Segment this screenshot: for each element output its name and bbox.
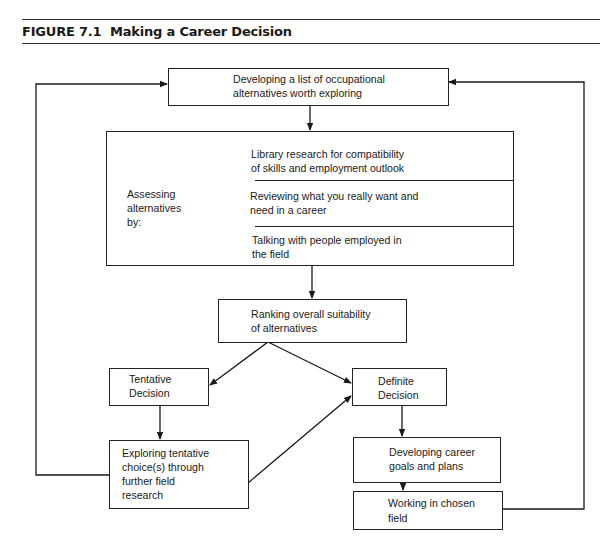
assessing-item-talking-line1: Talking with people employed in <box>252 233 402 247</box>
node-develop-list: Developing a list of occupational altern… <box>168 68 449 106</box>
assessing-item-reviewing-line1: Reviewing what you really want and <box>250 189 418 203</box>
assessing-item-talking-line2: the field <box>252 247 289 261</box>
node-definite-line2: Decision <box>378 388 419 402</box>
node-tentative-decision: Tentative Decision <box>109 368 209 406</box>
node-assessing: Assessing alternatives by: Library resea… <box>106 131 514 266</box>
node-goals-line2: goals and plans <box>389 459 463 473</box>
node-tentative-line1: Tentative <box>129 372 171 386</box>
node-develop-list-line2: alternatives worth exploring <box>233 86 362 100</box>
node-exploring-line2: choice(s) through <box>122 460 204 474</box>
arrow-ranking-to-tentative <box>210 342 268 385</box>
assessing-label-line1: Assessing <box>127 187 175 201</box>
arrow-exploring-to-definite <box>248 396 351 483</box>
node-exploring-line4: research <box>122 488 163 502</box>
assessing-item-reviewing-line2: need in a career <box>250 203 327 217</box>
node-career-goals: Developing career goals and plans <box>353 437 501 483</box>
node-exploring-tentative: Exploring tentative choice(s) through fu… <box>109 440 249 509</box>
node-ranking-line1: Ranking overall suitability <box>251 307 371 321</box>
node-tentative-line2: Decision <box>129 386 170 400</box>
node-ranking: Ranking overall suitability of alternati… <box>218 299 407 343</box>
node-working-line1: Working in chosen <box>388 496 475 510</box>
assessing-divider-2 <box>255 226 513 227</box>
assessing-item-library-line2: of skills and employment outlook <box>251 161 404 175</box>
node-working-in-field: Working in chosen field <box>353 491 503 530</box>
node-exploring-line3: further field <box>122 474 175 488</box>
node-definite-decision: Definite Decision <box>352 368 447 406</box>
node-working-line2: field <box>388 511 407 525</box>
node-definite-line1: Definite <box>378 374 414 388</box>
node-exploring-line1: Exploring tentative <box>122 446 209 460</box>
assessing-label-line2: alternatives <box>127 201 181 215</box>
assessing-item-library-line1: Library research for compatibility <box>251 147 404 161</box>
node-develop-list-line1: Developing a list of occupational <box>233 72 385 86</box>
assessing-divider-1 <box>255 180 513 181</box>
node-ranking-line2: of alternatives <box>251 321 317 335</box>
arrow-ranking-to-definite <box>268 342 351 383</box>
node-goals-line1: Developing career <box>389 445 475 459</box>
assessing-label-line3: by: <box>127 215 141 229</box>
